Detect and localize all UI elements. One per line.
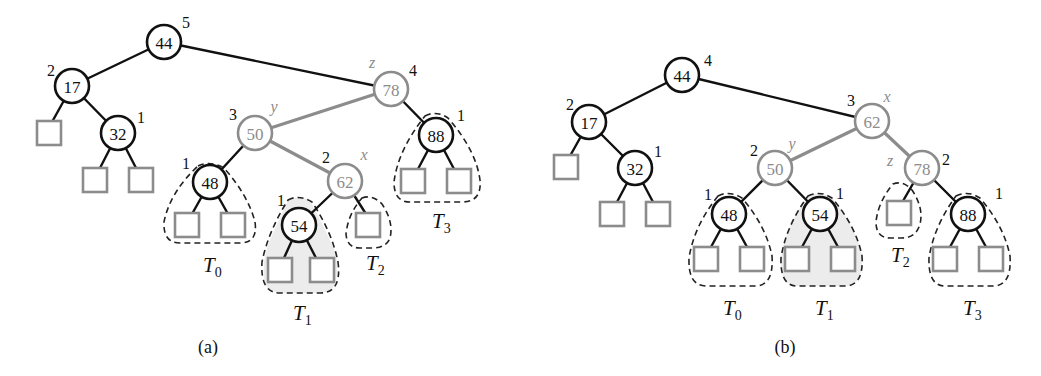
leaf-node xyxy=(356,213,380,237)
svg-text:78: 78 xyxy=(383,81,400,100)
panel-b: 44 4 17 2 32 1 62 3 x 50 2 y 78 2 xyxy=(554,52,1010,359)
svg-text:1: 1 xyxy=(137,109,145,126)
leaf-node xyxy=(785,247,809,271)
svg-text:54: 54 xyxy=(291,217,309,236)
leaf-node xyxy=(979,247,1003,271)
svg-text:3: 3 xyxy=(847,92,855,109)
leaf-node xyxy=(554,155,578,179)
svg-text:78: 78 xyxy=(914,160,931,179)
node-44-a: 44 5 xyxy=(147,14,190,60)
svg-text:x: x xyxy=(359,146,367,163)
node-32-b: 32 1 xyxy=(618,143,662,186)
leaf-node xyxy=(175,213,199,237)
svg-text:4: 4 xyxy=(704,52,712,69)
node-48-b: 48 1 xyxy=(704,186,746,232)
label-t3-b: T3 xyxy=(963,296,982,323)
svg-text:5: 5 xyxy=(182,14,190,31)
svg-text:1: 1 xyxy=(654,143,662,160)
svg-text:32: 32 xyxy=(110,125,127,144)
svg-text:2: 2 xyxy=(322,149,330,166)
svg-text:z: z xyxy=(886,152,894,169)
leaf-node xyxy=(600,202,624,226)
svg-text:48: 48 xyxy=(721,206,738,225)
leaf-node xyxy=(221,213,245,237)
caption-a: (a) xyxy=(198,337,218,358)
node-32-a: 32 1 xyxy=(101,109,145,151)
node-17-b: 17 2 xyxy=(566,96,606,140)
node-88-a: 88 1 xyxy=(419,107,465,153)
leaf-node xyxy=(447,169,471,193)
svg-text:1: 1 xyxy=(836,185,844,202)
leaf-node xyxy=(83,168,107,192)
svg-text:50: 50 xyxy=(767,160,784,179)
svg-text:44: 44 xyxy=(156,34,174,53)
node-17-a: 17 2 xyxy=(47,62,89,104)
panel-a: 44 5 17 2 32 1 78 4 z 50 3 y 62 2 xyxy=(37,14,480,359)
node-44-b: 44 4 xyxy=(665,52,712,93)
svg-text:4: 4 xyxy=(409,62,417,79)
svg-text:1: 1 xyxy=(704,186,712,203)
leaf-node xyxy=(740,247,764,271)
node-88-b: 88 1 xyxy=(951,185,1003,232)
svg-text:44: 44 xyxy=(674,67,692,86)
label-t1-b: T1 xyxy=(815,296,834,323)
svg-text:1: 1 xyxy=(182,155,190,172)
leaf-node xyxy=(129,168,153,192)
svg-text:32: 32 xyxy=(627,160,644,179)
label-t3-a: T3 xyxy=(432,209,451,236)
node-78-b: 78 2 z xyxy=(886,151,950,186)
svg-text:1: 1 xyxy=(457,107,465,124)
svg-text:17: 17 xyxy=(581,114,599,133)
node-78-a: 78 4 z xyxy=(368,54,417,107)
svg-text:1: 1 xyxy=(995,185,1003,202)
svg-text:62: 62 xyxy=(337,173,354,192)
svg-text:z: z xyxy=(368,54,376,71)
svg-text:y: y xyxy=(268,98,278,116)
leaf-node xyxy=(887,201,911,225)
svg-text:2: 2 xyxy=(47,62,55,79)
svg-text:2: 2 xyxy=(942,151,950,168)
svg-text:88: 88 xyxy=(428,127,445,146)
svg-text:88: 88 xyxy=(960,206,977,225)
leaf-node xyxy=(831,247,855,271)
node-50-b: 50 2 y xyxy=(750,135,796,186)
label-t2-b: T2 xyxy=(891,243,910,270)
label-t1-a: T1 xyxy=(293,301,312,328)
leaf-node xyxy=(694,247,718,271)
svg-text:17: 17 xyxy=(64,78,82,97)
leaf-node xyxy=(401,169,425,193)
svg-text:62: 62 xyxy=(864,113,881,132)
svg-text:2: 2 xyxy=(566,96,574,113)
label-t2-a: T2 xyxy=(366,251,385,278)
leaf-node xyxy=(37,121,61,145)
svg-text:2: 2 xyxy=(750,142,758,159)
label-t0-a: T0 xyxy=(203,253,222,280)
node-48-a: 48 1 xyxy=(182,155,227,200)
label-t0-b: T0 xyxy=(723,296,742,323)
caption-b: (b) xyxy=(775,337,796,358)
leaf-node xyxy=(933,247,957,271)
avl-trinode-restructuring-diagram: 44 5 17 2 32 1 78 4 z 50 3 y 62 2 xyxy=(0,0,1041,376)
svg-text:50: 50 xyxy=(247,125,264,144)
svg-text:54: 54 xyxy=(812,206,830,225)
svg-text:y: y xyxy=(786,135,796,153)
leaf-node xyxy=(268,258,292,282)
leaf-node xyxy=(310,258,334,282)
svg-text:3: 3 xyxy=(229,106,237,123)
svg-text:x: x xyxy=(882,88,890,105)
leaf-node xyxy=(646,202,670,226)
svg-text:1: 1 xyxy=(277,192,285,209)
svg-text:48: 48 xyxy=(202,174,219,193)
